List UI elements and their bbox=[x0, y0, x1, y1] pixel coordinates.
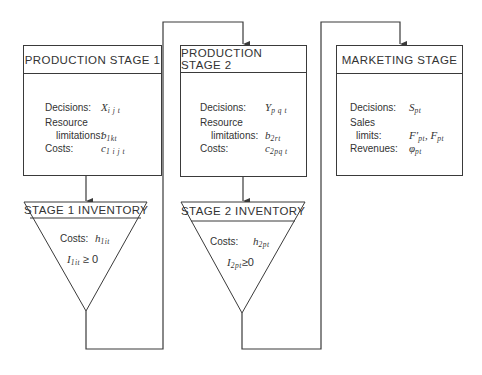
inventory-costs-label: Costs: bbox=[60, 233, 88, 244]
production-stage-1-title: PRODUCTION STAGE 1 bbox=[24, 46, 161, 74]
sales-limits-symbol: F′pt, Fpt bbox=[409, 129, 444, 143]
costs-symbol: c1 i j t bbox=[101, 142, 125, 156]
limitations-label: limitations: bbox=[211, 130, 258, 141]
limitations-symbol: b2rt bbox=[265, 129, 281, 143]
decisions-symbol: Spt bbox=[409, 101, 421, 115]
decisions-label: Decisions: bbox=[200, 102, 246, 113]
resource-label: Resource bbox=[200, 117, 243, 128]
decisions-label: Decisions: bbox=[45, 102, 91, 113]
decisions-symbol: Yp q t bbox=[265, 101, 287, 115]
decisions-symbol: Xi j t bbox=[101, 101, 120, 115]
decisions-label: Decisions: bbox=[350, 102, 396, 113]
revenues-symbol: φpt bbox=[409, 142, 422, 156]
production-stage-2-title: PRODUCTION STAGE 2 bbox=[181, 46, 306, 73]
limitations-symbol: b1kt bbox=[101, 129, 117, 143]
costs-label: Costs: bbox=[45, 143, 73, 154]
production-stage-2-box: PRODUCTION STAGE 2 Decisions: Yp q t Res… bbox=[180, 45, 307, 177]
sales-label: Sales bbox=[350, 117, 375, 128]
limits-label: limits: bbox=[356, 130, 382, 141]
resource-label: Resource bbox=[45, 117, 88, 128]
inventory-constraint: I1it ≥ 0 bbox=[67, 253, 98, 267]
limitations-label: limitations: bbox=[56, 130, 103, 141]
production-stage-1-box: PRODUCTION STAGE 1 Decisions: Xi j t Res… bbox=[23, 45, 162, 176]
stage-1-inventory-title: STAGE 1 INVENTORY bbox=[24, 204, 147, 216]
marketing-stage-title: MARKETING STAGE bbox=[337, 46, 462, 74]
stage-2-inventory-title: STAGE 2 INVENTORY bbox=[181, 205, 305, 217]
inventory-costs-symbol: h1it bbox=[95, 232, 110, 246]
marketing-stage-box: MARKETING STAGE Decisions: Spt Sales lim… bbox=[336, 45, 463, 176]
costs-symbol: c2pq t bbox=[265, 142, 288, 156]
costs-label: Costs: bbox=[200, 143, 228, 154]
inventory-costs-label: Costs: bbox=[210, 236, 238, 247]
inventory-costs-symbol: h2pt bbox=[253, 235, 270, 249]
inventory-constraint: I2pt≥0 bbox=[227, 256, 254, 270]
revenues-label: Revenues: bbox=[350, 143, 398, 154]
